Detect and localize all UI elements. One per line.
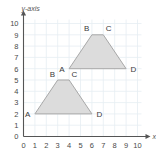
- coordinate-plane-svg: 012345678910 123456789100 ABCDABCD x-axi…: [0, 0, 156, 159]
- y-tick-label: 10: [10, 19, 18, 28]
- x-tick-label: 9: [124, 141, 128, 150]
- vertex-label-a: A: [25, 110, 31, 119]
- x-tick-label: 2: [44, 141, 48, 150]
- vertex-label-d: D: [131, 65, 137, 74]
- vertex-label-b: B: [84, 24, 89, 33]
- x-axis-title: x-axis: [152, 133, 157, 140]
- x-tick-label: 5: [78, 141, 82, 150]
- vertex-label-d: D: [96, 110, 102, 119]
- x-tick-label: 10: [133, 141, 141, 150]
- origin-tick-label: 0: [14, 132, 18, 141]
- vertex-label-c: C: [106, 24, 112, 33]
- x-tick-label: 8: [113, 141, 117, 150]
- vertex-label-a: A: [59, 65, 65, 74]
- y-tick-label: 9: [14, 31, 18, 40]
- x-tick-label: 6: [90, 141, 94, 150]
- y-tick-label: 4: [14, 87, 18, 96]
- y-tick-label: 2: [14, 110, 18, 119]
- x-tick-label: 7: [101, 141, 105, 150]
- x-tick-label: 4: [67, 141, 71, 150]
- vertex-label-b: B: [50, 70, 55, 79]
- y-tick-label: 5: [14, 76, 18, 85]
- x-tick-label: 0: [21, 141, 25, 150]
- y-tick-label: 6: [14, 65, 18, 74]
- y-axis-title: y-axis: [21, 5, 41, 13]
- y-tick-label: 7: [14, 53, 18, 62]
- y-tick-label: 1: [14, 121, 18, 130]
- vertex-label-c: C: [72, 70, 78, 79]
- x-tick-label: 1: [33, 141, 37, 150]
- coordinate-grid-figure: 012345678910 123456789100 ABCDABCD x-axi…: [0, 0, 156, 159]
- y-tick-label: 8: [14, 42, 18, 51]
- x-tick-label: 3: [56, 141, 60, 150]
- y-tick-label: 3: [14, 98, 18, 107]
